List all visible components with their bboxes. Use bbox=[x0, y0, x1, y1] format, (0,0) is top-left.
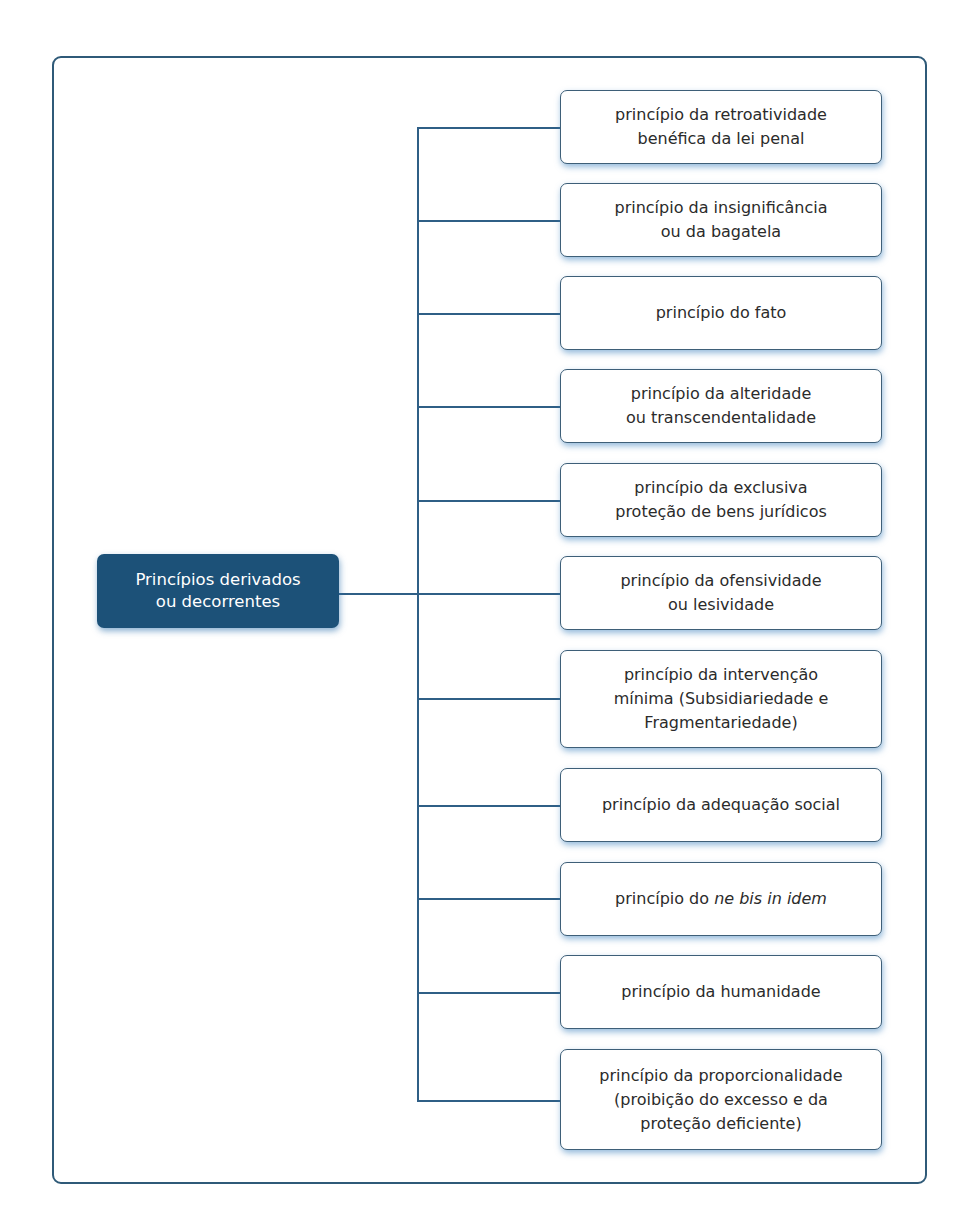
node-label: ou da bagatela bbox=[614, 220, 827, 244]
branch-connector bbox=[417, 698, 560, 700]
branch-connector bbox=[417, 313, 560, 315]
trunk-line bbox=[417, 127, 419, 1101]
node-label: mínima (Subsidiariedade e bbox=[614, 687, 829, 711]
node-label: princípio da adequação social bbox=[602, 793, 840, 817]
node-label-italic: ne bis in idem bbox=[714, 889, 827, 908]
branch-connector bbox=[417, 898, 560, 900]
branch-connector bbox=[417, 127, 560, 129]
node-label: princípio da exclusiva bbox=[615, 476, 827, 500]
node-humanidade: princípio da humanidade bbox=[560, 955, 882, 1029]
node-label-prefix: princípio do bbox=[615, 889, 714, 908]
root-label-line2: ou decorrentes bbox=[135, 591, 300, 613]
branch-connector bbox=[417, 500, 560, 502]
node-label: ou transcendentalidade bbox=[626, 406, 816, 430]
node-label: proteção deficiente) bbox=[599, 1112, 842, 1136]
node-label: benéfica da lei penal bbox=[615, 127, 827, 151]
node-label: proteção de bens jurídicos bbox=[615, 500, 827, 524]
branch-connector bbox=[417, 406, 560, 408]
node-intervencao-minima: princípio da intervençãomínima (Subsidia… bbox=[560, 650, 882, 748]
node-label: princípio da alteridade bbox=[626, 382, 816, 406]
node-alteridade: princípio da alteridadeou transcendental… bbox=[560, 369, 882, 443]
node-label: ou lesividade bbox=[620, 593, 821, 617]
branch-connector bbox=[417, 805, 560, 807]
node-retroatividade: princípio da retroatividadebenéfica da l… bbox=[560, 90, 882, 164]
node-label: princípio da retroatividade bbox=[615, 103, 827, 127]
node-label: princípio do fato bbox=[656, 301, 787, 325]
node-label: princípio da insignificância bbox=[614, 196, 827, 220]
node-proporcionalidade: princípio da proporcionalidade(proibição… bbox=[560, 1049, 882, 1150]
node-label: princípio da intervenção bbox=[614, 663, 829, 687]
node-insignificancia: princípio da insignificânciaou da bagate… bbox=[560, 183, 882, 257]
node-ofensividade: princípio da ofensividadeou lesividade bbox=[560, 556, 882, 630]
node-fato: princípio do fato bbox=[560, 276, 882, 350]
root-label-line1: Princípios derivados bbox=[135, 569, 300, 591]
branch-connector bbox=[417, 220, 560, 222]
root-connector bbox=[339, 593, 560, 595]
root-node: Princípios derivados ou decorrentes bbox=[97, 554, 339, 628]
node-ne-bis-in-idem: princípio do ne bis in idem bbox=[560, 862, 882, 936]
branch-connector bbox=[417, 1100, 560, 1102]
node-adequacao-social: princípio da adequação social bbox=[560, 768, 882, 842]
node-label: Fragmentariedade) bbox=[614, 711, 829, 735]
node-exclusiva-protecao: princípio da exclusivaproteção de bens j… bbox=[560, 463, 882, 537]
branch-connector bbox=[417, 992, 560, 994]
node-label: princípio da proporcionalidade bbox=[599, 1064, 842, 1088]
node-label: (proibição do excesso e da bbox=[599, 1088, 842, 1112]
node-label: princípio da humanidade bbox=[621, 980, 820, 1004]
node-label: princípio da ofensividade bbox=[620, 569, 821, 593]
node-label: princípio do ne bis in idem bbox=[615, 887, 827, 911]
